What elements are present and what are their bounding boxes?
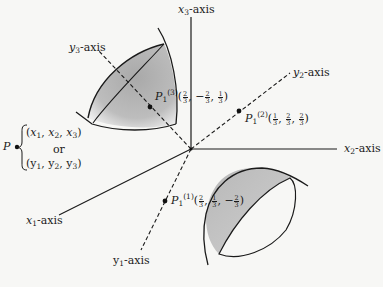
point-p1-1-label: P1(1)(23, 13, −23) xyxy=(171,193,244,208)
y2-axis-label: y2-axis xyxy=(293,67,330,80)
point-p1-2-dot xyxy=(237,109,242,114)
point-p1-3-dot xyxy=(148,105,153,110)
x2-axis-label: x2-axis xyxy=(344,143,381,156)
origin-dot xyxy=(190,148,193,151)
point-p1-3-label: P1(3)(23, −23, 13) xyxy=(155,89,228,104)
point-P-x-coords: (x1, x2, x3) xyxy=(26,126,82,143)
point-P-coordinates: (x1, x2, x3) or (y1, y2, y3) xyxy=(26,126,82,174)
surface-patch-lower xyxy=(204,168,308,265)
point-P-label: P xyxy=(3,141,10,152)
y1-axis-label: y1-axis xyxy=(113,255,150,268)
point-P-y-coords: (y1, y2, y3) xyxy=(26,157,82,174)
x1-axis-label: x1-axis xyxy=(26,215,63,228)
point-P-or: or xyxy=(26,143,82,157)
x3-axis-label: x3-axis xyxy=(178,4,215,17)
point-p1-1-dot xyxy=(163,199,168,204)
y3-axis-label: y3-axis xyxy=(69,42,106,55)
point-p1-2-label: P1(2)(13, 23, 23) xyxy=(245,111,309,126)
